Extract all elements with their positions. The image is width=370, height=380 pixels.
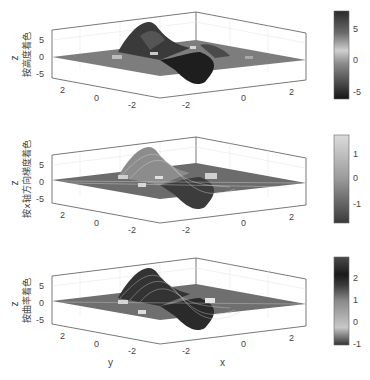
x-axis-ticks: -2 0 2 (182, 333, 294, 356)
z-axis-label: z (9, 181, 20, 186)
svg-text:2: 2 (60, 85, 65, 95)
x-axis-label: x (220, 357, 225, 368)
colorbar-1: 5 0 -5 (334, 11, 361, 99)
svg-text:-5: -5 (36, 69, 44, 79)
z-axis-sublabel: 按高度着色 (21, 32, 32, 77)
svg-text:0: 0 (39, 52, 44, 62)
svg-text:0: 0 (241, 93, 246, 103)
svg-text:0: 0 (241, 339, 246, 349)
svg-text:-2: -2 (128, 346, 136, 356)
svg-text:0: 0 (94, 339, 99, 349)
colorbar-3: 2 1 0 -1 (334, 257, 361, 349)
svg-text:0: 0 (353, 317, 358, 327)
svg-text:2: 2 (289, 87, 294, 97)
surface-plot-3: 5 0 -5 2 0 -2 -2 0 2 y x z 按曲率着色 2 1 0 -… (0, 250, 370, 380)
svg-text:0: 0 (353, 173, 358, 183)
y-axis-ticks: 2 0 -2 (60, 210, 136, 235)
svg-text:5: 5 (39, 281, 44, 291)
svg-text:5: 5 (39, 35, 44, 45)
svg-text:1: 1 (353, 295, 358, 305)
subplot-curvature-colored: 5 0 -5 2 0 -2 -2 0 2 y x z 按曲率着色 2 1 0 -… (0, 250, 370, 380)
z-axis-label: z (9, 56, 20, 61)
subplot-height-colored: 5 0 -5 2 0 -2 -2 0 2 z 按高度着色 5 0 -5 (0, 0, 370, 125)
y-axis-ticks: 2 0 -2 (60, 85, 136, 110)
surface-plot-2: 5 0 -5 2 0 -2 -2 0 2 z 按x轴方向梯度着色 1 0 -1 (0, 125, 370, 250)
svg-text:-2: -2 (182, 100, 190, 110)
svg-text:-5: -5 (36, 315, 44, 325)
svg-text:0: 0 (94, 218, 99, 228)
y-axis-ticks: 2 0 -2 (60, 331, 136, 356)
svg-text:2: 2 (60, 210, 65, 220)
z-axis-ticks: 5 0 -5 (36, 35, 44, 79)
colorbar-2: 1 0 -1 (334, 135, 361, 223)
z-axis-ticks: 5 0 -5 (36, 281, 44, 325)
z-axis-sublabel: 按x轴方向梯度着色 (21, 140, 32, 217)
svg-text:-2: -2 (182, 346, 190, 356)
svg-text:0: 0 (353, 55, 358, 65)
svg-text:0: 0 (241, 218, 246, 228)
svg-text:5: 5 (39, 160, 44, 170)
z-axis-sublabel: 按曲率着色 (21, 278, 32, 323)
svg-text:-5: -5 (36, 194, 44, 204)
svg-text:0: 0 (94, 93, 99, 103)
z-axis-label: z (9, 302, 20, 307)
svg-text:-2: -2 (128, 100, 136, 110)
svg-text:2: 2 (353, 273, 358, 283)
x-axis-ticks: -2 0 2 (182, 87, 294, 110)
svg-text:0: 0 (39, 298, 44, 308)
svg-text:-5: -5 (353, 87, 361, 97)
svg-text:-1: -1 (353, 339, 361, 349)
svg-text:2: 2 (60, 331, 65, 341)
svg-text:2: 2 (289, 333, 294, 343)
svg-text:5: 5 (353, 24, 358, 34)
y-axis-label: y (108, 357, 113, 368)
svg-text:0: 0 (39, 177, 44, 187)
surface-plot-1: 5 0 -5 2 0 -2 -2 0 2 z 按高度着色 5 0 -5 (0, 0, 370, 125)
svg-text:1: 1 (353, 149, 358, 159)
svg-text:-1: -1 (353, 199, 361, 209)
svg-text:-2: -2 (128, 225, 136, 235)
x-axis-ticks: -2 0 2 (182, 212, 294, 235)
svg-text:-2: -2 (182, 225, 190, 235)
svg-text:2: 2 (289, 212, 294, 222)
subplot-x-gradient-colored: 5 0 -5 2 0 -2 -2 0 2 z 按x轴方向梯度着色 1 0 -1 (0, 125, 370, 250)
z-axis-ticks: 5 0 -5 (36, 160, 44, 204)
